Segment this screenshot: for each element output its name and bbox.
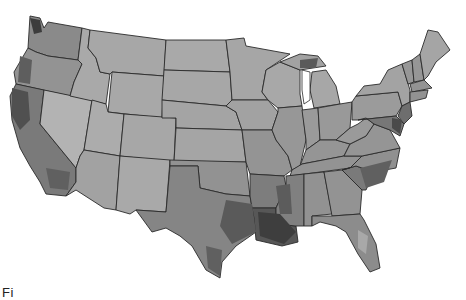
state-ks [174,128,246,162]
state-mt [88,30,166,76]
state-me [420,30,450,80]
great-lakes [302,70,310,104]
state-fl [312,214,380,272]
state-mi-lower [310,70,340,108]
state-co [120,114,176,162]
us-county-choropleth-map [0,0,466,284]
lake-michigan [302,70,310,104]
figure-caption: Fi [2,285,14,300]
state-wy [108,72,164,118]
state-nd [164,40,230,72]
state-nm [116,156,170,214]
dark-cluster-oregon-coast [18,56,32,84]
state-ct-ri [410,90,428,102]
